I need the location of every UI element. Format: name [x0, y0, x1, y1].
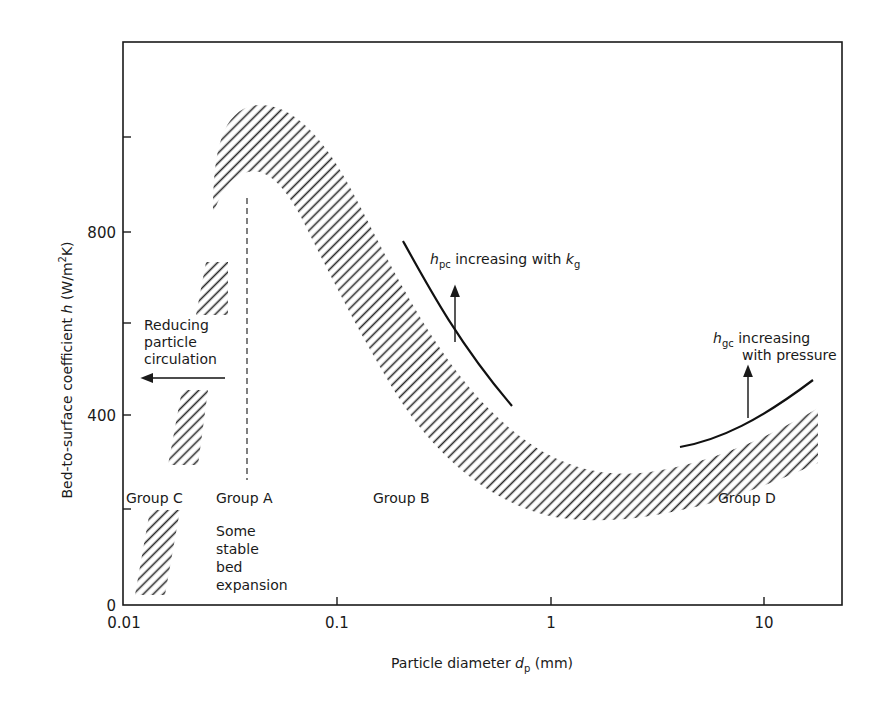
- group-b-label: Group B: [373, 490, 430, 506]
- x-tick-label: 10: [754, 614, 773, 632]
- y-tick-label: 0: [106, 597, 116, 615]
- main-heat-transfer-band: [213, 105, 818, 520]
- reducing-circulation-label: Reducing particle circulation: [144, 317, 217, 367]
- reduced-circulation-hatched-patch: [168, 390, 208, 465]
- group-a-label: Group A: [216, 490, 273, 506]
- x-tick-label: 1: [546, 614, 556, 632]
- y-tick-label: 800: [87, 224, 116, 242]
- hpc-annotation: hpc increasing with kg: [430, 251, 580, 270]
- group-d-label: Group D: [718, 490, 776, 506]
- chart-canvas: 0.01 0.1 1 10 0 400 800 Particle diamete…: [0, 0, 890, 703]
- x-tick-label: 0.01: [107, 614, 140, 632]
- x-axis-ticks: [337, 597, 764, 605]
- stable-bed-expansion-label: Some stable bed expansion: [216, 523, 288, 593]
- y-axis-title: Bed-to-surface coefficient h (W/m2K): [57, 241, 75, 498]
- group-c-hatched-patch: [135, 510, 180, 595]
- y-axis-ticks: [123, 137, 131, 509]
- group-a-hatched-patch: [196, 262, 228, 315]
- group-c-label: Group C: [126, 490, 183, 506]
- x-axis-title: Particle diameter dp (mm): [391, 655, 573, 674]
- y-tick-label: 400: [87, 407, 116, 425]
- x-tick-label: 0.1: [325, 614, 349, 632]
- hgc-annotation-line2: with pressure: [742, 347, 837, 363]
